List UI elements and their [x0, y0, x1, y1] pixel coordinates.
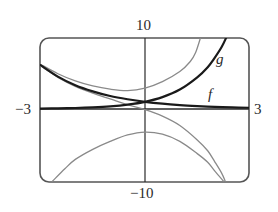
curve-label-g: g — [216, 52, 224, 67]
curve-f-g-inverted — [53, 132, 224, 181]
curve-label-f: f — [208, 87, 212, 102]
y-max-tick-label: 10 — [136, 18, 151, 33]
y-min-tick-label: −10 — [130, 186, 153, 201]
curve-g — [41, 37, 227, 109]
curve-f-g — [41, 37, 201, 91]
x-min-tick-label: −3 — [15, 102, 31, 117]
x-max-tick-label: 3 — [254, 102, 262, 117]
